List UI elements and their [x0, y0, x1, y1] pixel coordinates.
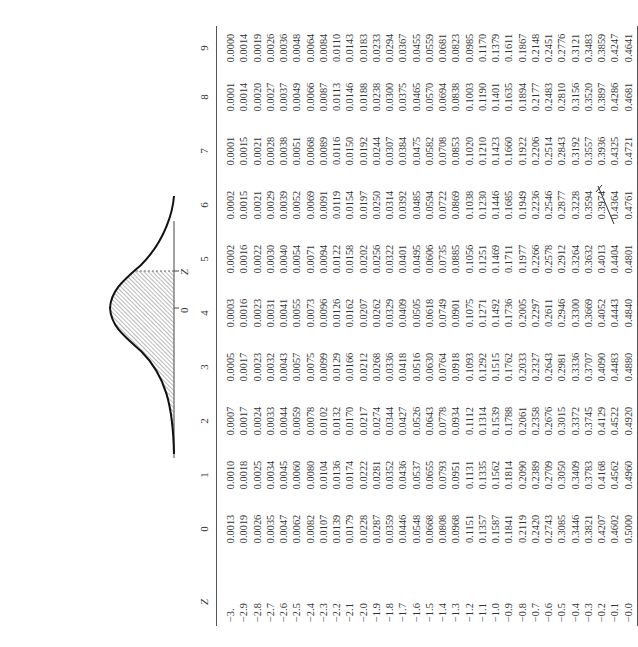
- header-col-2: 2: [192, 394, 216, 448]
- z-value: −1.7: [396, 582, 409, 622]
- header-z: Z: [192, 578, 216, 626]
- values-column-5: 0.00020.00160.00220.00300.00400.00540.00…: [224, 232, 635, 286]
- table-cell: 0.0082: [304, 502, 317, 556]
- table-cell: 0.0446: [396, 502, 409, 556]
- table-cell: 0.2451: [542, 26, 555, 70]
- table-cell: 0.2877: [555, 178, 568, 232]
- table-cell: 0.0162: [343, 286, 356, 340]
- table-cell: 0.0052: [290, 178, 303, 232]
- table-cell: 0.5000: [622, 502, 635, 556]
- table-cell: 0.0099: [317, 340, 330, 394]
- table-cell: 0.1056: [463, 232, 476, 286]
- table-cell: 0.0582: [423, 124, 436, 178]
- z-value: −0.2: [595, 582, 608, 622]
- table-cell: 0.0051: [290, 124, 303, 178]
- table-cell: 0.0015: [237, 124, 250, 178]
- table-cell: 0.0655: [423, 448, 436, 502]
- table-cell: 0.4761: [622, 178, 635, 232]
- table-cell: 0.0054: [290, 232, 303, 286]
- table-cell: 0.0300: [383, 70, 396, 124]
- table-cell: 0.0869: [449, 178, 462, 232]
- table-cell: 0.0003: [224, 286, 237, 340]
- table-cell: 0.4090: [595, 340, 608, 394]
- z-value: −0.3: [582, 582, 595, 622]
- table-cell: 0.0126: [330, 286, 343, 340]
- z-value: −0.1: [608, 582, 621, 622]
- header-col-0: 0: [192, 502, 216, 556]
- table-cell: 0.1075: [463, 286, 476, 340]
- table-cell: 0.0838: [449, 70, 462, 124]
- table-cell: 0.0015: [237, 178, 250, 232]
- table-cell: 0.0606: [423, 232, 436, 286]
- table-cell: 0.0018: [237, 448, 250, 502]
- table-cell: 0.0031: [264, 286, 277, 340]
- table-cell: 0.0401: [396, 232, 409, 286]
- table-cell: 0.2061: [516, 394, 529, 448]
- table-cell: 0.0023: [251, 286, 264, 340]
- table-cell: 0.0089: [317, 124, 330, 178]
- table-cell: 0.2743: [542, 502, 555, 556]
- table-cell: 0.0375: [396, 70, 409, 124]
- table-cell: 0.4207: [595, 502, 608, 556]
- z-value: −2.8: [251, 582, 264, 622]
- table-cell: 0.2266: [529, 232, 542, 286]
- table-cell: 0.0352: [383, 448, 396, 502]
- table-cell: 0.0043: [277, 340, 290, 394]
- z-value: −1.4: [436, 582, 449, 622]
- table-cell: 0.4681: [622, 70, 635, 124]
- z-value: −1.3: [449, 582, 462, 622]
- table-cell: 0.3897: [595, 70, 608, 124]
- table-cell: 0.0359: [383, 502, 396, 556]
- table-cell: 0.0314: [383, 178, 396, 232]
- table-cell: 0.2420: [529, 502, 542, 556]
- table-cell: 0.2843: [555, 124, 568, 178]
- table-cell: 0.0102: [317, 394, 330, 448]
- z-value: −1.2: [463, 582, 476, 622]
- table-cell: 0.0823: [449, 26, 462, 70]
- table-cell: 0.0019: [251, 26, 264, 70]
- table-cell: 0.0016: [237, 286, 250, 340]
- table-cell: 0.0212: [357, 340, 370, 394]
- table-cell: 0.0001: [224, 124, 237, 178]
- values-column-0: 0.00130.00190.00260.00350.00470.00620.00…: [224, 502, 635, 556]
- table-cell: 0.2546: [542, 178, 555, 232]
- table-cell: 0.3669: [582, 286, 595, 340]
- table-cell: 0.0455: [410, 26, 423, 70]
- table-cell: 0.3783: [582, 448, 595, 502]
- table-cell: 0.0233: [370, 26, 383, 70]
- z-table: Z 0 1 2 3 4 5 6 7 8 9 −3.−2.9−2.8−2.7−2.…: [192, 26, 632, 636]
- table-cell: 0.0594: [423, 178, 436, 232]
- bell-curve-icon: [96, 26, 192, 636]
- table-cell: 0.3446: [569, 502, 582, 556]
- table-cell: 0.4129: [595, 394, 608, 448]
- table-cell: 0.3483: [582, 26, 595, 70]
- table-cell: 0.2177: [529, 70, 542, 124]
- table-cell: 0.2297: [529, 286, 542, 340]
- table-cell: 0.0024: [251, 394, 264, 448]
- table-cell: 0.0778: [436, 394, 449, 448]
- header-col-3: 3: [192, 340, 216, 394]
- table-cell: 0.1003: [463, 70, 476, 124]
- z-value: −2.4: [304, 582, 317, 622]
- table-cell: 0.4920: [622, 394, 635, 448]
- table-cell: 0.3228: [569, 178, 582, 232]
- table-cell: 0.1469: [489, 232, 502, 286]
- table-cell: 0.0793: [436, 448, 449, 502]
- table-cell: 0.0643: [423, 394, 436, 448]
- table-cell: 0.0069: [304, 178, 317, 232]
- values-column-6: 0.00020.00150.00210.00290.00390.00520.00…: [224, 178, 635, 232]
- table-cell: 0.0091: [317, 178, 330, 232]
- table-cell: 0.1762: [502, 340, 515, 394]
- z-value: −1.5: [423, 582, 436, 622]
- table-cell: 0.0014: [237, 70, 250, 124]
- table-cell: 0.0110: [330, 26, 343, 70]
- table-cell: 0.2810: [555, 70, 568, 124]
- header-rule: [216, 26, 217, 626]
- table-cell: 0.0136: [330, 448, 343, 502]
- table-cell: 0.0618: [423, 286, 436, 340]
- table-cell: 0.0570: [423, 70, 436, 124]
- table-cell: 0.0049: [290, 70, 303, 124]
- table-cell: 0.0075: [304, 340, 317, 394]
- table-cell: 0.0885: [449, 232, 462, 286]
- table-cell: 0.0044: [277, 394, 290, 448]
